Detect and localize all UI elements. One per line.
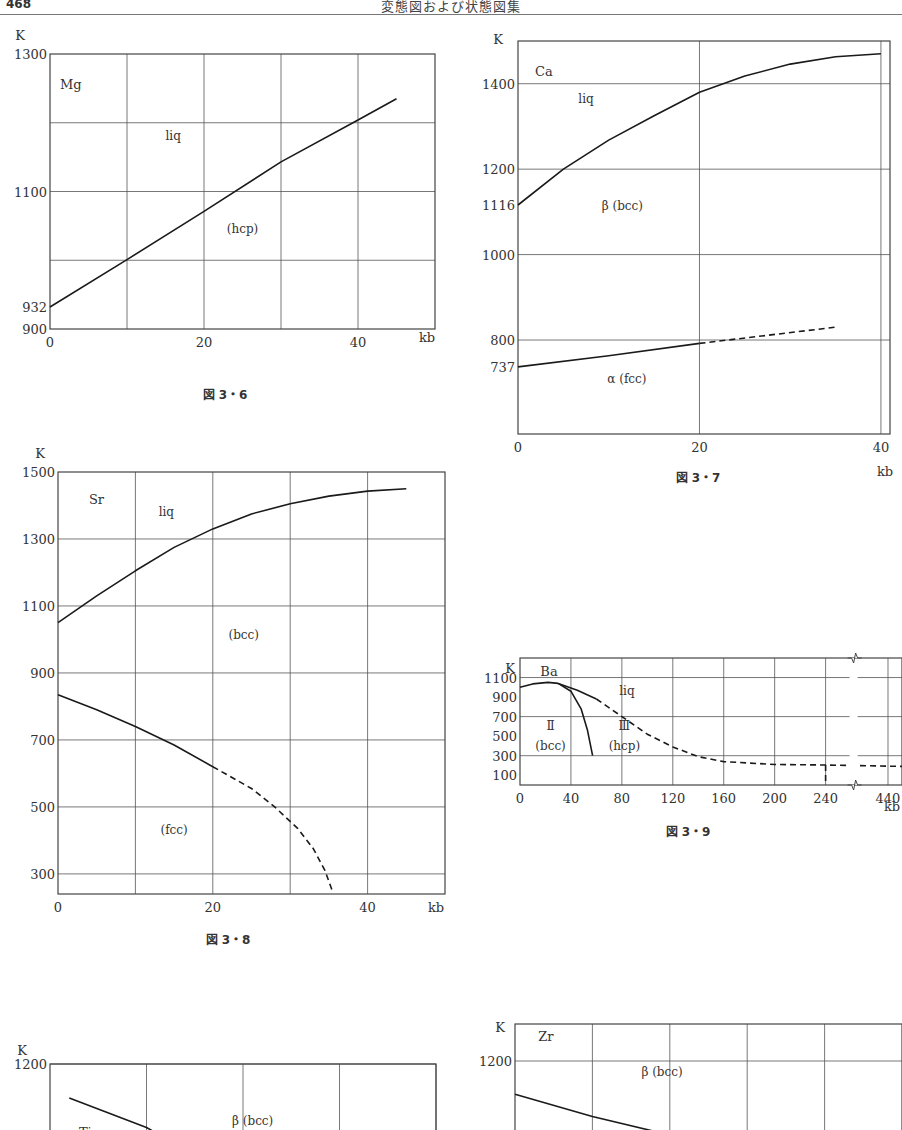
phase-boundary-line — [558, 683, 596, 699]
y-tick-label: 1100 — [22, 599, 55, 614]
element-symbol: Sr — [89, 492, 105, 507]
phase-region-label: liq — [166, 129, 182, 143]
grid — [518, 41, 890, 434]
figure-ti-phase-diagram-partial: 12001000KTiβ (bcc) — [0, 1040, 450, 1130]
figure-caption: 図 3・8 — [206, 933, 251, 947]
x-tick-label: 40 — [359, 900, 376, 915]
phase-region-label: Ⅱ — [546, 719, 554, 733]
x-tick-label: 0 — [516, 791, 524, 806]
figure-3-6-mg-phase-diagram: 1300110093290002040KkbMgliq(hcp)図 3・6 — [0, 24, 450, 402]
y-tick-label: 1500 — [22, 465, 55, 480]
plot-frame — [58, 472, 445, 894]
y-tick-label: 900 — [492, 690, 517, 705]
phase-region-label: (hcp) — [609, 739, 641, 753]
phase-boundary-line — [520, 682, 558, 687]
x-tick-label: 20 — [205, 900, 222, 915]
phase-region-label: Ⅲ — [619, 719, 631, 733]
phase-region-label: β (bcc) — [641, 1065, 682, 1079]
x-tick-label: 20 — [691, 440, 708, 455]
x-axis-unit: kb — [419, 330, 435, 345]
phase-region-label: β (bcc) — [232, 1114, 273, 1128]
x-axis-unit: kb — [884, 799, 900, 814]
x-tick-label: 40 — [873, 440, 890, 455]
figure-caption: 図 3・9 — [666, 825, 711, 839]
phase-region-label: (bcc) — [535, 739, 566, 753]
phase-region-label: β (bcc) — [602, 199, 643, 213]
phase-boundary-line — [69, 1098, 248, 1130]
y-tick-label: 1116 — [482, 198, 515, 213]
y-axis-unit: K — [495, 1020, 505, 1035]
phase-boundary-line — [518, 343, 700, 367]
x-axis-unit: kb — [877, 464, 893, 479]
x-tick-label: 0 — [54, 900, 62, 915]
grid — [515, 1024, 902, 1130]
y-tick-label: 1200 — [482, 162, 515, 177]
y-axis-unit: K — [35, 446, 45, 461]
phase-region-label: (hcp) — [227, 222, 259, 236]
y-tick-label: 900 — [22, 322, 47, 337]
running-title: 変態図および状態図集 — [0, 0, 902, 15]
y-tick-label: 100 — [492, 768, 517, 783]
grid — [50, 54, 435, 329]
plot-frame — [515, 1024, 902, 1130]
phase-region-label: liq — [159, 505, 175, 519]
y-axis-unit: K — [15, 28, 25, 43]
page-header: 468 変態図および状態図集 — [0, 0, 902, 16]
y-tick-label: 1000 — [482, 248, 515, 263]
x-tick-label: 240 — [813, 791, 838, 806]
y-tick-label: 1300 — [22, 532, 55, 547]
element-symbol: Ba — [540, 664, 558, 679]
x-tick-label: 40 — [350, 335, 367, 350]
phase-region-label: liq — [619, 684, 635, 698]
x-tick-label: 40 — [563, 791, 580, 806]
element-symbol: Ti — [79, 1125, 92, 1130]
phase-boundary-line — [58, 489, 406, 623]
x-tick-label: 20 — [196, 335, 213, 350]
y-tick-label: 800 — [490, 333, 515, 348]
x-tick-label: 120 — [660, 791, 685, 806]
x-tick-label: 80 — [614, 791, 631, 806]
y-tick-label: 1300 — [14, 47, 47, 62]
y-tick-label: 1200 — [14, 1057, 47, 1072]
x-tick-label: 0 — [46, 335, 54, 350]
y-tick-label: 1100 — [14, 185, 47, 200]
plot-frame — [518, 41, 890, 434]
x-axis-unit: kb — [428, 900, 444, 915]
figure-caption: 図 3・7 — [676, 471, 721, 485]
y-tick-label: 500 — [30, 800, 55, 815]
axis-break-gap — [850, 660, 858, 783]
y-tick-label: 1400 — [482, 77, 515, 92]
phase-region-label: (bcc) — [229, 628, 260, 642]
y-tick-label: 300 — [30, 867, 55, 882]
y-axis-unit: K — [505, 661, 515, 676]
x-tick-label: 0 — [514, 440, 522, 455]
y-axis-unit: K — [493, 32, 503, 47]
y-tick-label: 500 — [492, 729, 517, 744]
phase-region-label: (fcc) — [160, 823, 187, 837]
y-axis-unit: K — [17, 1043, 27, 1058]
grid — [58, 472, 445, 894]
y-tick-label: 700 — [492, 710, 517, 725]
y-tick-label: 737 — [490, 360, 515, 375]
phase-region-label: α (fcc) — [607, 372, 646, 386]
figure-caption: 図 3・6 — [203, 388, 248, 402]
figure-3-7-ca-phase-diagram: 140012001116100080073702040KkbCaliqβ (bc… — [460, 24, 902, 488]
element-symbol: Ca — [535, 64, 553, 79]
header-divider — [0, 14, 902, 15]
element-symbol: Zr — [538, 1029, 554, 1044]
phase-boundary-line — [700, 327, 836, 343]
y-tick-label: 700 — [30, 733, 55, 748]
y-tick-label: 1200 — [479, 1054, 512, 1069]
figure-3-9-ba-phase-diagram: 110090070050030010004080120160200240440K… — [490, 648, 902, 808]
phase-boundary-line — [213, 767, 333, 893]
figure-3-8-sr-phase-diagram: 15001300110090070050030002040KkbSrliq(bc… — [0, 444, 460, 1014]
y-tick-label: 900 — [30, 666, 55, 681]
y-tick-label: 932 — [22, 300, 47, 315]
figure-zr-phase-diagram-partial: 12001000KZrβ (bcc) — [480, 1020, 902, 1130]
phase-region-label: liq — [578, 92, 594, 106]
x-tick-label: 160 — [711, 791, 736, 806]
phase-boundary-line — [50, 99, 397, 307]
element-symbol: Mg — [60, 77, 82, 92]
y-tick-label: 300 — [492, 749, 517, 764]
x-tick-label: 200 — [762, 791, 787, 806]
